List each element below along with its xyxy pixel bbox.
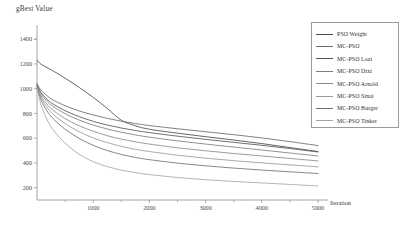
- legend-item-label: MC-PSO Lozi: [337, 56, 372, 62]
- legend-item[interactable]: MC-PSO Tinker: [316, 115, 377, 127]
- legend-item-label: MC-PSO Tinker: [337, 118, 377, 124]
- legend-color-swatch: [316, 108, 333, 109]
- legend-color-swatch: [316, 83, 333, 84]
- legend-color-swatch: [316, 71, 333, 72]
- legend-color-swatch: [316, 58, 333, 59]
- x-tick-label: 2000: [143, 204, 155, 211]
- series-line: [37, 87, 318, 174]
- legend-item-label: MC-PSO Dixi: [337, 68, 372, 74]
- legend-item-label: MC-PSO Arnold: [337, 81, 378, 87]
- legend-item[interactable]: MC-PSO Lozi: [316, 53, 372, 65]
- legend-color-swatch: [316, 46, 333, 47]
- legend-item[interactable]: PSO Weight: [316, 28, 367, 40]
- x-tick-label: 3000: [199, 204, 211, 211]
- series-line: [37, 86, 318, 167]
- legend-item[interactable]: MC-PSO Burger: [316, 102, 378, 114]
- axis-group: 2004006008001000120014001000200030004000…: [20, 25, 328, 211]
- legend-item-label: MC-PSO Burger: [337, 105, 378, 111]
- series-line: [37, 60, 318, 151]
- legend: PSO WeightMC-PSOMC-PSO LoziMC-PSO DixiMC…: [311, 22, 399, 128]
- y-tick-label: 800: [23, 110, 32, 117]
- legend-item[interactable]: MC-PSO Sinai: [316, 90, 374, 102]
- legend-item-label: MC-PSO: [337, 43, 360, 49]
- legend-color-swatch: [316, 34, 333, 35]
- legend-item[interactable]: MC-PSO: [316, 40, 360, 52]
- legend-color-swatch: [316, 120, 333, 121]
- legend-item[interactable]: MC-PSO Dixi: [316, 65, 372, 77]
- series-group: [37, 60, 318, 186]
- y-tick-label: 400: [23, 159, 32, 166]
- convergence-chart-figure: gBest Value Iteration 200400600800100012…: [0, 0, 402, 232]
- legend-item[interactable]: MC-PSO Arnold: [316, 78, 378, 90]
- x-tick-label: 4000: [256, 204, 268, 211]
- x-tick-label: 5000: [312, 204, 324, 211]
- y-tick-label: 600: [23, 134, 32, 141]
- legend-color-swatch: [316, 96, 333, 97]
- legend-item-label: PSO Weight: [337, 31, 367, 37]
- y-tick-label: 1400: [20, 35, 32, 42]
- y-tick-label: 1000: [20, 85, 32, 92]
- x-tick-label: 1000: [87, 204, 99, 211]
- series-line: [37, 86, 318, 161]
- legend-item-label: MC-PSO Sinai: [337, 93, 374, 99]
- y-tick-label: 1200: [20, 60, 32, 67]
- y-tick-label: 200: [23, 184, 32, 191]
- series-line: [37, 84, 318, 152]
